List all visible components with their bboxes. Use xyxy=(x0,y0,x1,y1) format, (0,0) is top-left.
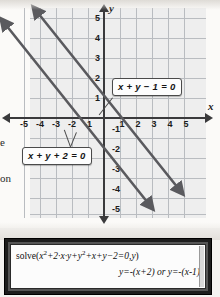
entry-close-paren: ) xyxy=(136,251,139,261)
plotted-lines xyxy=(0,0,220,228)
calculator-scrollbar[interactable] xyxy=(199,246,204,287)
calculator-result-line: y=-(x+2) or y=-(x-1) xyxy=(16,267,200,278)
solve-command-keyword: solve xyxy=(16,251,36,261)
calculator-screen[interactable]: solve(x2+2·x·y+y2+x+y−2=0,y) y=-(x+2) or… xyxy=(10,244,206,289)
entry-expression-c: +x+y−2=0, xyxy=(85,251,131,261)
calculator-bezel: solve(x2+2·x·y+y2+x+y−2=0,y) y=-(x+2) or… xyxy=(8,242,208,291)
callout-equation-line2: x + y + 2 = 0 xyxy=(22,147,92,165)
margin-text-fragment: e xyxy=(0,136,5,148)
calculator-entry-line: solve(x2+2·x·y+y2+x+y−2=0,y) xyxy=(16,249,200,262)
plot-line-x-plus-y-plus-2 xyxy=(2,20,152,208)
entry-expression-b: +2·x·y+y xyxy=(47,251,82,261)
calculator-screenshot: solve(x2+2·x·y+y2+x+y−2=0,y) y=-(x+2) or… xyxy=(4,238,212,295)
scan-shading-top xyxy=(0,0,220,10)
margin-text-fragment: on xyxy=(0,172,11,184)
callout-equation-line1: x + y − 1 = 0 xyxy=(112,78,182,96)
coordinate-graph-figure: x y -5 -4 -3 -2 -1 1 2 3 4 5 5 4 3 2 1 -… xyxy=(0,0,220,228)
